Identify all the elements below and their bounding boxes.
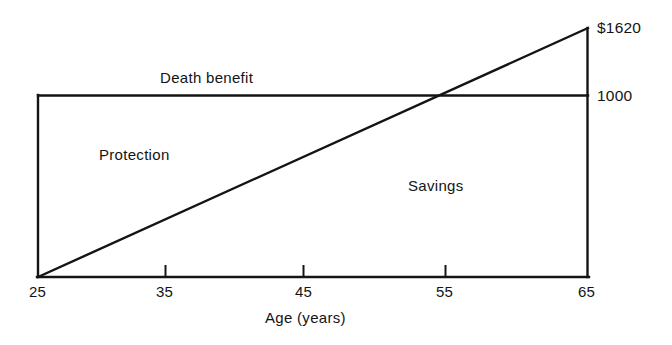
x-tick-label-45: 45 (295, 284, 312, 299)
chart-figure: $1620 1000 Death benefit Protection Savi… (0, 0, 672, 345)
x-tick-label-35: 35 (156, 284, 173, 299)
x-axis-title: Age (years) (265, 310, 346, 325)
region-label-savings: Savings (408, 178, 463, 193)
value-label-death-benefit: 1000 (597, 88, 632, 104)
region-label-protection: Protection (99, 147, 170, 162)
value-label-top: $1620 (597, 20, 641, 36)
x-tick-label-25: 25 (29, 284, 46, 299)
region-label-death-benefit: Death benefit (160, 70, 253, 85)
x-tick-label-55: 55 (436, 284, 453, 299)
x-tick-label-65: 65 (578, 284, 595, 299)
chart-canvas (0, 0, 672, 345)
